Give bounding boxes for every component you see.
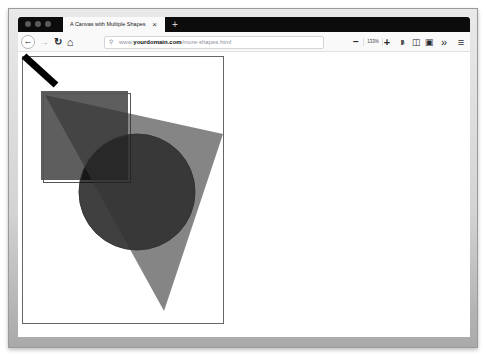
- maximize-window-button[interactable]: [45, 21, 51, 27]
- minimize-window-button[interactable]: [35, 21, 41, 27]
- shapes-canvas[interactable]: [18, 52, 470, 337]
- zoom-level[interactable]: 133%: [363, 38, 383, 46]
- zoom-out-icon[interactable]: −: [351, 32, 361, 52]
- url-bar[interactable]: ⚲ www.yourdomain.com/more-shapes.html: [104, 36, 324, 49]
- zoom-in-icon[interactable]: +: [382, 32, 392, 52]
- page-content: [18, 52, 470, 337]
- library-icon[interactable]: |||\: [396, 32, 408, 52]
- nav-toolbar: ← → ↻ ⌂ ⚲ www.yourdomain.com/more-shapes…: [18, 32, 470, 52]
- home-icon[interactable]: ⌂: [64, 32, 76, 52]
- url-prefix: www.: [119, 39, 133, 45]
- sidebar-icon[interactable]: ◫: [411, 32, 421, 52]
- hamburger-menu-icon[interactable]: ≡: [455, 32, 467, 52]
- url-path: /more-shapes.html: [182, 39, 232, 45]
- overflow-menu-icon[interactable]: »: [439, 32, 449, 52]
- close-window-button[interactable]: [25, 21, 31, 27]
- reader-view-icon[interactable]: ▣: [424, 32, 434, 52]
- tab-bar: A Canvas with Multiple Shapes × +: [18, 17, 470, 32]
- reload-icon[interactable]: ↻: [52, 32, 64, 52]
- tab-active[interactable]: A Canvas with Multiple Shapes ×: [63, 17, 165, 32]
- url-text: www.yourdomain.com/more-shapes.html: [119, 37, 231, 48]
- thick-line-shape: [24, 56, 56, 85]
- triangle-shape: [45, 95, 223, 311]
- shape-layer: [24, 56, 223, 311]
- new-tab-button[interactable]: +: [169, 17, 181, 32]
- back-arrow-icon: ←: [22, 36, 34, 48]
- tab-close-icon[interactable]: ×: [152, 17, 157, 32]
- url-domain: yourdomain.com: [133, 39, 181, 45]
- browser-window: A Canvas with Multiple Shapes × + ← → ↻ …: [18, 17, 470, 337]
- forward-arrow-icon[interactable]: →: [38, 32, 50, 52]
- tab-title: A Canvas with Multiple Shapes: [70, 21, 146, 27]
- back-button[interactable]: ←: [21, 35, 35, 49]
- search-icon: ⚲: [109, 37, 113, 48]
